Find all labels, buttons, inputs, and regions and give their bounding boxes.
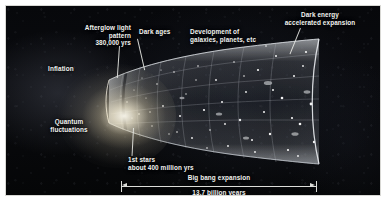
timespan-arrow-right	[310, 183, 315, 187]
label-dark-ages: Dark ages	[139, 28, 170, 36]
timespan-arrow-left	[122, 183, 127, 187]
timespan-rule	[121, 186, 317, 187]
big-bang-rim	[106, 80, 109, 123]
label-dark-energy: Dark energy accelerated expansion	[261, 11, 379, 26]
figure-frame: Afterglow light pattern 380,000 yrs Dark…	[5, 5, 381, 196]
label-inflation: Inflation	[48, 65, 74, 73]
label-quantum-fluctuations: Quantum fluctuations	[39, 118, 99, 133]
label-total-time: 13.7 billion years	[156, 189, 282, 196]
universe-timeline-figure: Afterglow light pattern 380,000 yrs Dark…	[0, 0, 386, 201]
label-first-stars: 1st stars about 400 million yrs	[128, 156, 194, 171]
timespan-tick-end	[316, 181, 317, 192]
label-big-bang-expansion: Big bang expansion	[156, 174, 282, 182]
label-afterglow-light: Afterglow light pattern 380,000 yrs	[53, 24, 131, 47]
label-development-of-galaxies: Development of galaxies, planets, etc	[190, 28, 256, 43]
